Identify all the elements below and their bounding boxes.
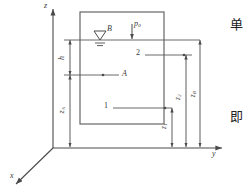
free-surface-point-label: B (107, 25, 112, 33)
point-1-label: 1 (104, 102, 108, 110)
axis-z-label: z (44, 2, 47, 10)
hydrostatics-figure (0, 0, 252, 196)
dim-zB-label: zB (189, 91, 197, 97)
point-1-leader (113, 107, 172, 110)
dim-zB-subscript: B (192, 91, 197, 94)
dim-z2-label: z2 (174, 95, 182, 100)
margin-text-bottom: 即 (230, 110, 243, 123)
dim-z1-subscript: 1 (163, 124, 168, 127)
pressure-subscript: 0 (138, 23, 141, 28)
point-2-leader (145, 54, 192, 57)
axis-y-label: y (212, 150, 216, 158)
dim-h-label: h (58, 56, 66, 60)
dim-z1-label: z1 (160, 124, 168, 129)
dim-zA-label: zA (58, 107, 67, 113)
point-A-label: A (122, 70, 127, 78)
axis-x-label: x (10, 172, 14, 180)
dim-z2-subscript: 2 (177, 95, 182, 98)
free-surface-symbol (94, 31, 106, 46)
pressure-label: p0 (134, 20, 141, 29)
fluid-tank-outline (80, 12, 164, 124)
dim-zA-subscript: A (61, 107, 66, 110)
axis-x (16, 148, 53, 184)
point-A-leader (64, 74, 119, 77)
point-2-label: 2 (136, 49, 140, 57)
margin-text-top: 单 (230, 18, 243, 31)
